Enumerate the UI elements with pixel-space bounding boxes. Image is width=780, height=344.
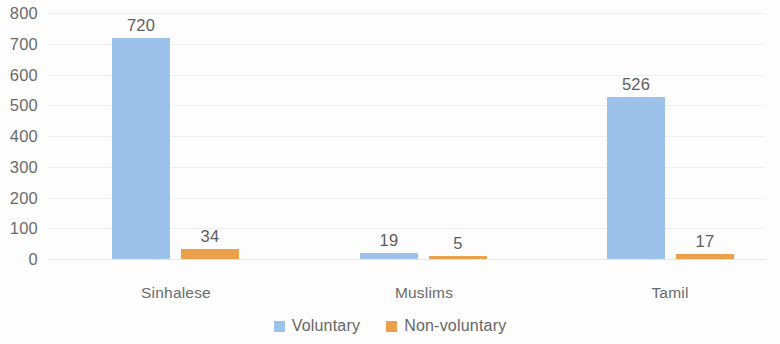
y-axis: 800 700 600 500 400 300 200 100 0 (0, 0, 44, 272)
data-label-nonvoluntary-sinhalese: 34 (201, 227, 220, 244)
bar-voluntary-sinhalese (112, 38, 170, 259)
y-tick-label: 100 (0, 220, 38, 237)
y-tick-label: 700 (0, 36, 38, 53)
bar-nonvoluntary-muslims (429, 256, 487, 259)
bar-nonvoluntary-sinhalese (181, 249, 239, 260)
y-tick-label: 800 (0, 5, 38, 22)
y-tick-label: 600 (0, 66, 38, 83)
legend-item-nonvoluntary[interactable]: Non-voluntary (386, 318, 506, 334)
gridline (48, 13, 765, 14)
y-tick-label: 200 (0, 189, 38, 206)
data-label-voluntary-tamil: 526 (622, 76, 650, 93)
bar-voluntary-muslims (360, 253, 418, 259)
y-tick-label: 0 (0, 251, 38, 268)
x-axis-label-muslims: Muslims (395, 285, 453, 301)
legend-label: Voluntary (292, 318, 361, 334)
legend-label: Non-voluntary (404, 318, 506, 334)
data-label-voluntary-sinhalese: 720 (127, 16, 155, 33)
plot-area: 720 34 19 5 526 17 Sinhalese Muslims Tam… (48, 13, 765, 259)
bar-chart: 800 700 600 500 400 300 200 100 0 720 34… (0, 0, 780, 344)
legend-item-voluntary[interactable]: Voluntary (274, 318, 361, 334)
bar-voluntary-tamil (607, 97, 665, 259)
x-axis-label-sinhalese: Sinhalese (141, 285, 211, 301)
y-tick-label: 400 (0, 128, 38, 145)
legend-swatch-icon (274, 321, 285, 332)
data-label-nonvoluntary-tamil: 17 (696, 233, 715, 250)
gridline-zero (48, 259, 765, 260)
data-label-nonvoluntary-muslims: 5 (453, 235, 462, 252)
legend-swatch-icon (386, 321, 397, 332)
x-axis-label-tamil: Tamil (651, 285, 688, 301)
chart-legend: Voluntary Non-voluntary (0, 318, 780, 334)
data-label-voluntary-muslims: 19 (380, 232, 399, 249)
y-tick-label: 500 (0, 97, 38, 114)
y-tick-label: 300 (0, 159, 38, 176)
bar-nonvoluntary-tamil (676, 254, 734, 259)
